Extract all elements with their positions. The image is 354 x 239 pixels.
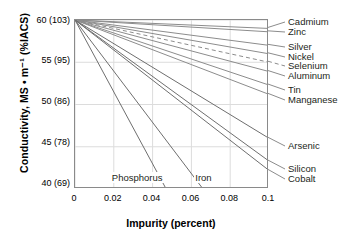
series-line-arsenic: [75, 20, 268, 138]
series-label-cobalt: Cobalt: [288, 174, 315, 184]
inline-label-phosphorus: Phosphorus: [111, 172, 164, 183]
series-line-manganese: [75, 20, 268, 94]
series-label-manganese: Manganese: [288, 95, 338, 105]
inline-label-iron: Iron: [194, 172, 212, 183]
series-label-zinc: Zinc: [288, 27, 306, 37]
y-tick-label-1: 55 (95): [41, 55, 70, 65]
series-line-aluminum: [75, 20, 268, 72]
x-tick-label-2: 0.04: [143, 193, 161, 203]
leader-line-cadmium: [268, 22, 285, 27]
leader-line-silver: [268, 44, 285, 47]
x-tick-label-0: 0: [71, 193, 76, 203]
leader-line-arsenic: [268, 137, 285, 146]
series-label-aluminum: Aluminum: [288, 71, 330, 81]
leader-line-nickel: [268, 53, 285, 57]
leader-line-zinc: [268, 31, 285, 32]
y-tick-label-3: 45 (78): [41, 137, 70, 147]
chart-figure: Conductivity, MS • m⁻¹ (%IACS) 60 (103) …: [0, 0, 354, 239]
leader-line-tin: [268, 84, 285, 90]
plot-area: [74, 19, 268, 188]
y-tick-label-0: 60 (103): [36, 15, 70, 25]
series-line-nickel: [75, 20, 268, 54]
series-label-arsenic: Arsenic: [288, 141, 320, 151]
y-tick-label-4: 40 (69): [41, 178, 70, 188]
leader-line-manganese: [268, 93, 285, 100]
leader-line-selenium: [268, 61, 285, 66]
y-tick-label-2: 50 (86): [41, 96, 70, 106]
y-axis-title: Conductivity, MS • m⁻¹ (%IACS): [18, 3, 30, 183]
x-tick-label-5: 0.1: [262, 193, 275, 203]
leader-line-silicon: [268, 160, 285, 169]
x-tick-label-1: 0.02: [104, 193, 122, 203]
leader-line-cobalt: [268, 169, 285, 179]
plot-svg: [75, 20, 268, 188]
leader-line-aluminum: [268, 71, 285, 76]
x-tick-label-4: 0.08: [220, 193, 238, 203]
x-tick-label-3: 0.06: [182, 193, 200, 203]
x-axis-title: Impurity (percent): [74, 217, 268, 229]
